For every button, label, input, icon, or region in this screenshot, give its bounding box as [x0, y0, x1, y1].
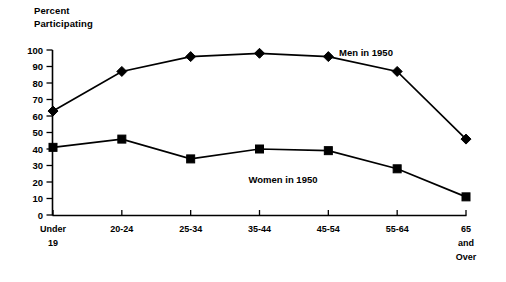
series-line-1 — [53, 53, 466, 139]
data-point-marker-square — [256, 145, 264, 153]
y-tick-labels: 0102030405060708090100 — [27, 45, 43, 221]
line-chart-plot: 0102030405060708090100 Under1920-2425-34… — [0, 0, 506, 282]
data-point-marker-diamond — [117, 66, 127, 76]
data-point-marker-square — [393, 165, 401, 173]
y-tick-label: 100 — [27, 45, 43, 56]
x-category-label: 65 — [461, 224, 471, 234]
x-category-label: 25-34 — [179, 224, 202, 234]
y-tick-label: 50 — [32, 127, 43, 138]
y-tick-label: 60 — [32, 111, 43, 122]
x-axis-group: Under1920-2425-3435-4445-5455-6465andOve… — [40, 210, 477, 262]
y-tick-label: 10 — [32, 193, 43, 204]
y-tick-label: 40 — [32, 144, 43, 155]
x-category-label: 45-54 — [317, 224, 340, 234]
series-label-1: Men in 1950 — [339, 47, 393, 58]
data-point-marker-square — [187, 155, 195, 163]
y-tick-label: 80 — [32, 78, 43, 89]
x-category-label: 35-44 — [248, 224, 271, 234]
y-tick-label: 20 — [32, 177, 43, 188]
y-tick-label: 90 — [32, 61, 43, 72]
y-tick-marks — [47, 50, 53, 215]
y-tick-label: 0 — [38, 210, 43, 221]
x-category-label: Over — [456, 252, 477, 262]
x-category-label: and — [458, 238, 474, 248]
data-point-marker-square — [49, 143, 57, 151]
y-axis-group: 0102030405060708090100 — [27, 45, 52, 221]
x-category-labels: Under1920-2425-3435-4445-5455-6465andOve… — [40, 224, 477, 262]
data-point-marker-square — [118, 135, 126, 143]
data-point-marker-diamond — [323, 52, 333, 62]
data-point-marker-diamond — [48, 106, 58, 116]
x-category-label: 55-64 — [386, 224, 409, 234]
chart-container: Percent Participating 010203040506070809… — [0, 0, 506, 282]
y-tick-label: 70 — [32, 94, 43, 105]
series-annotations: Men in 1950Women in 1950 — [249, 47, 393, 185]
data-point-marker-diamond — [255, 48, 265, 58]
data-point-marker-diamond — [186, 52, 196, 62]
x-tick-marks — [53, 210, 466, 216]
x-category-label: Under — [40, 224, 67, 234]
data-point-marker-square — [462, 193, 470, 201]
data-point-marker-square — [324, 147, 332, 155]
y-tick-label: 30 — [32, 160, 43, 171]
series-label-2: Women in 1950 — [249, 174, 318, 185]
x-category-label: 20-24 — [110, 224, 133, 234]
x-category-label: 19 — [48, 238, 58, 248]
